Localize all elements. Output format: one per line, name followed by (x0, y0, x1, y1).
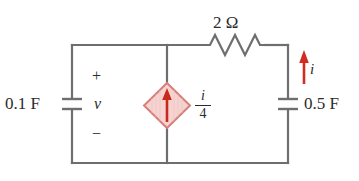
dependent-current-source-icon (144, 83, 190, 128)
capacitor-right-value-label: 0.5 F (304, 95, 339, 112)
capacitor-icon-right (278, 99, 298, 109)
current-label: i (310, 62, 314, 77)
circuit-schematic-canvas (0, 0, 359, 181)
dependent-source-value-label: i 4 (195, 89, 211, 121)
resistor-value-label: 2 Ω (213, 14, 238, 31)
circuit-diagram: 0.1 F 0.5 F 2 Ω + v − i i 4 (0, 0, 359, 181)
fraction-denominator: 4 (195, 107, 211, 122)
current-arrow-up-icon (299, 50, 309, 84)
polarity-plus-label: + (92, 68, 101, 84)
resistor-icon (204, 35, 265, 55)
polarity-minus-label: − (92, 126, 101, 142)
capacitor-icon-left (62, 99, 82, 109)
voltage-label: v (94, 96, 101, 112)
fraction-numerator: i (195, 89, 211, 104)
capacitor-left-value-label: 0.1 F (5, 95, 40, 112)
